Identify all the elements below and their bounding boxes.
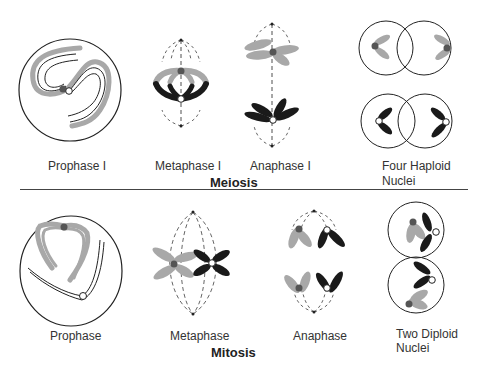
prophase-i-cell	[19, 39, 121, 141]
label-four-haploid-line2: Nuclei	[382, 174, 415, 188]
two-diploid-nuclei	[388, 202, 444, 313]
label-two-diploid-line2: Nuclei	[396, 341, 429, 355]
label-prophase-i: Prophase I	[48, 159, 106, 173]
label-metaphase: Metaphase	[170, 329, 229, 343]
mitosis-title: Mitosis	[211, 345, 256, 360]
four-haploid-nuclei	[359, 21, 452, 148]
label-anaphase-i: Anaphase I	[250, 159, 311, 173]
label-four-haploid-line1: Four Haploid	[382, 159, 451, 173]
prophase-cell	[20, 216, 122, 326]
label-prophase: Prophase	[50, 329, 101, 343]
metaphase-cell	[150, 211, 231, 316]
section-divider	[20, 189, 468, 190]
label-anaphase: Anaphase	[293, 329, 347, 343]
anaphase-i-cell	[243, 23, 300, 148]
label-metaphase-i: Metaphase I	[155, 159, 221, 173]
anaphase-cell	[281, 210, 347, 314]
meiosis-title: Meiosis	[210, 175, 258, 190]
metaphase-i-cell	[156, 39, 206, 128]
label-two-diploid-line1: Two Diploid	[396, 327, 458, 341]
